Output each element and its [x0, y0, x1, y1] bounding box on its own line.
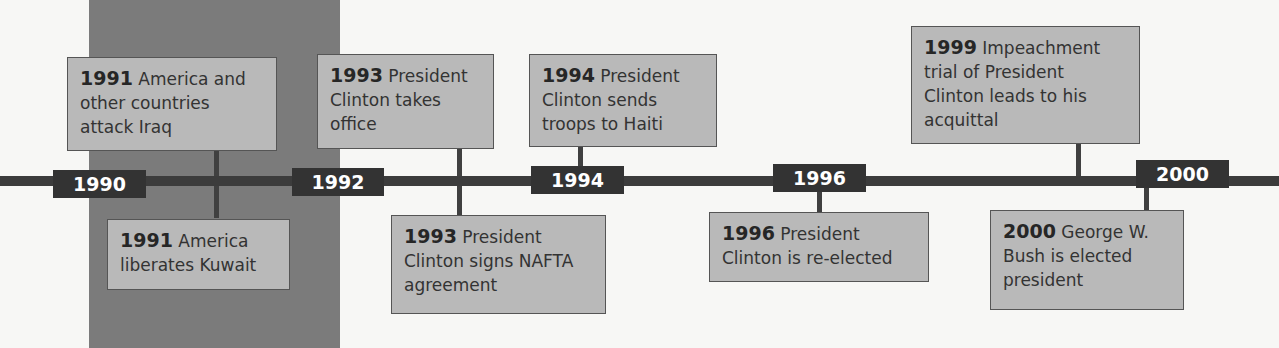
timeline-axis — [0, 176, 1279, 186]
year-marker-1996: 1996 — [773, 164, 866, 192]
event-box-1991-iraq: 1991 America and other countries attack … — [67, 57, 277, 151]
year-marker-1994: 1994 — [531, 166, 624, 194]
connector — [817, 190, 822, 214]
event-year: 1999 — [924, 36, 977, 58]
event-box-1993-office: 1993 President Clinton takes office — [317, 54, 494, 149]
event-year: 1996 — [722, 222, 775, 244]
year-marker-1990: 1990 — [53, 170, 146, 198]
event-box-1999-impeachment: 1999 Impeachment trial of President Clin… — [911, 26, 1140, 144]
connector — [1076, 142, 1081, 178]
event-year: 1993 — [404, 225, 457, 247]
event-year: 1994 — [542, 64, 595, 86]
event-box-1996-reelected: 1996 President Clinton is re-elected — [709, 212, 929, 282]
event-box-2000-bush: 2000 George W. Bush is elected president — [990, 210, 1184, 310]
event-year: 1993 — [330, 64, 383, 86]
event-box-1994-haiti: 1994 President Clinton sends troops to H… — [529, 54, 717, 147]
event-year: 1991 — [120, 229, 173, 251]
event-box-1993-nafta: 1993 President Clinton signs NAFTA agree… — [391, 215, 606, 314]
year-marker-2000: 2000 — [1136, 160, 1229, 188]
connector — [1144, 186, 1149, 210]
event-year: 1991 — [80, 67, 133, 89]
year-marker-1992: 1992 — [292, 168, 384, 196]
event-box-1991-kuwait: 1991 America liberates Kuwait — [107, 219, 290, 290]
event-year: 2000 — [1003, 220, 1056, 242]
